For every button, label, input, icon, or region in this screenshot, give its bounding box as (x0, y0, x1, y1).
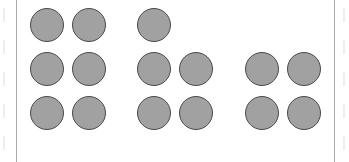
margin-dash (3, 104, 5, 118)
group-3-circle (245, 52, 279, 86)
margin-dash (343, 40, 345, 54)
group-2-circle (137, 96, 171, 130)
margin-dash (3, 72, 5, 86)
group-1-circle (72, 8, 106, 42)
margin-dash (343, 136, 345, 150)
margin-dash (343, 72, 345, 86)
group-2-circle (179, 96, 213, 130)
margin-dash (343, 104, 345, 118)
group-1-circle (72, 52, 106, 86)
group-2-circle (137, 8, 171, 42)
group-2-circle (179, 52, 213, 86)
margin-dash (343, 8, 345, 22)
group-3-circle (287, 52, 321, 86)
group-1-circle (30, 8, 64, 42)
margin-dash (3, 8, 5, 22)
group-1-circle (72, 96, 106, 130)
group-1-circle (30, 96, 64, 130)
margin-dash (3, 136, 5, 150)
group-2-circle (137, 52, 171, 86)
margin-dash (3, 40, 5, 54)
group-1-circle (30, 52, 64, 86)
group-3-circle (287, 96, 321, 130)
group-3-circle (245, 96, 279, 130)
